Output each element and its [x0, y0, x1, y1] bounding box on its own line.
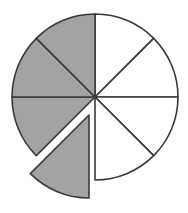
fraction-circle-diagram: [0, 0, 188, 213]
